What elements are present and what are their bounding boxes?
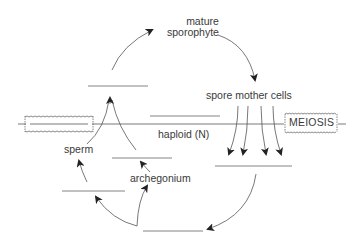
sperm-label: sperm [64, 144, 93, 155]
arrow-meiosis-3 [261, 106, 266, 154]
mature-label-line2: sporophyte [167, 27, 219, 38]
arrow-to-sporophyte [112, 30, 152, 70]
arrow-meiosis-1 [229, 106, 238, 154]
spore-mother-cells-label: spore mother cells [206, 90, 292, 101]
answer-blanks [62, 86, 292, 231]
meiosis-label: MEIOSIS [289, 117, 334, 128]
arrow-to-spore-mother-cells [218, 35, 255, 80]
haploid-label: haploid (N) [158, 129, 209, 140]
arrow-bottom-to-archegonium [137, 186, 147, 226]
arrow-bottom-to-gametophyte [96, 197, 137, 226]
left-process-box [25, 116, 93, 132]
arrow-egg-to-zygote [112, 100, 136, 150]
mature-sporophyte-label: mature sporophyte [186, 16, 219, 38]
arrow-meiosis-4 [273, 106, 281, 154]
arrow-gametophyte-to-sperm [79, 161, 87, 182]
arrow-archegonium-up [141, 162, 150, 172]
archegonium-label: archegonium [130, 173, 191, 184]
arrow-meiosis-2 [243, 106, 248, 154]
arrow-spores-to-bottom [208, 174, 256, 229]
